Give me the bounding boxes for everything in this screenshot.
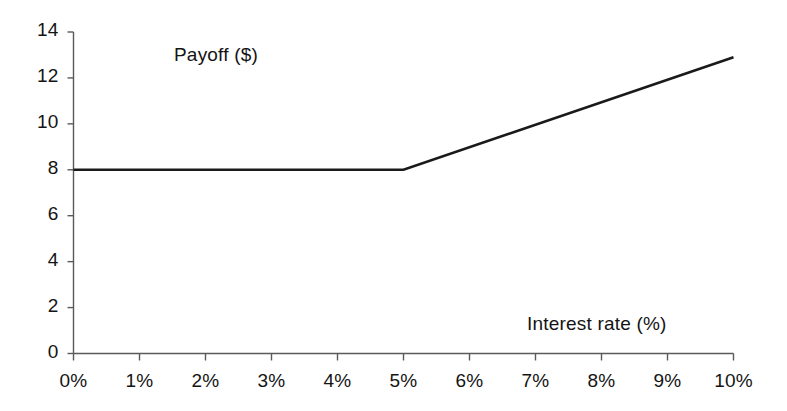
plot-area (0, 0, 787, 411)
x-axis-title: Interest rate (%) (527, 313, 667, 335)
x-axis-ticks (74, 354, 734, 361)
y-tick-label: 2 (13, 295, 59, 317)
chart-figure: 02468101214 0%1%2%3%4%5%6%7%8%9%10% Payo… (0, 0, 787, 411)
y-tick-label: 0 (13, 341, 59, 363)
y-tick-label: 10 (13, 111, 59, 133)
y-tick-label: 14 (13, 19, 59, 41)
y-axis-ticks (68, 32, 74, 354)
y-axis-title: Payoff ($) (174, 44, 258, 66)
y-tick-label: 6 (13, 203, 59, 225)
payoff-series-line (74, 57, 734, 170)
y-tick-label: 4 (13, 249, 59, 271)
y-tick-label: 8 (13, 157, 59, 179)
x-tick-label: 10% (694, 370, 774, 392)
y-tick-label: 12 (13, 65, 59, 87)
